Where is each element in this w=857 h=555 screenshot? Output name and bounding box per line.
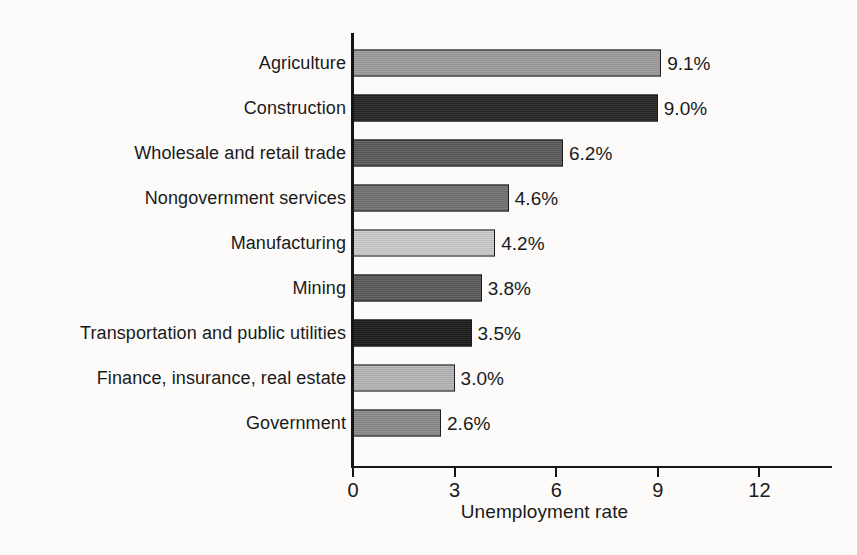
- category-label: Government: [246, 412, 346, 434]
- bar-row: Transportation and public utilities3.5%: [0, 310, 857, 355]
- x-axis-tick-label: 0: [347, 478, 358, 502]
- x-axis-tick-label: 3: [449, 478, 460, 502]
- bar-value-label: 3.8%: [488, 276, 531, 299]
- category-label: Transportation and public utilities: [80, 322, 346, 344]
- bar: [353, 274, 482, 301]
- x-axis-title-text: Unemployment rate: [461, 501, 629, 523]
- bar-value-label: 6.2%: [569, 141, 612, 164]
- bar-row: Finance, insurance, real estate3.0%: [0, 355, 857, 400]
- category-label: Mining: [292, 277, 346, 299]
- bar-chart: Agriculture9.1%Construction9.0%Wholesale…: [0, 0, 857, 555]
- category-label: Finance, insurance, real estate: [97, 367, 346, 389]
- x-axis-tick-label: 9: [652, 478, 663, 502]
- bar-value-label: 9.1%: [667, 51, 710, 74]
- bar-row: Wholesale and retail trade6.2%: [0, 130, 857, 175]
- category-label: Agriculture: [259, 52, 346, 74]
- bar: [353, 409, 441, 436]
- x-axis-tick: [758, 466, 760, 477]
- y-axis-line: [351, 33, 354, 468]
- bar-row: Agriculture9.1%: [0, 40, 857, 85]
- bar: [353, 94, 658, 121]
- bar: [353, 49, 661, 76]
- x-axis-tick: [352, 466, 354, 477]
- bar-value-label: 2.6%: [447, 411, 490, 434]
- x-axis-title: Unemployment rate: [0, 501, 857, 523]
- bar-row: Mining3.8%: [0, 265, 857, 310]
- bar-value-label: 3.5%: [478, 321, 521, 344]
- bar-value-label: 4.6%: [515, 186, 558, 209]
- bar-row: Nongovernment services4.6%: [0, 175, 857, 220]
- bar-value-label: 4.2%: [501, 231, 544, 254]
- x-axis-tick-label: 6: [551, 478, 562, 502]
- x-axis-tick: [454, 466, 456, 477]
- category-label: Nongovernment services: [145, 187, 346, 209]
- x-axis-tick-label: 12: [748, 478, 770, 502]
- x-axis-tick: [657, 466, 659, 477]
- bar-row: Construction9.0%: [0, 85, 857, 130]
- bar-value-label: 9.0%: [664, 96, 707, 119]
- bar-value-label: 3.0%: [461, 366, 504, 389]
- category-label: Construction: [244, 97, 346, 119]
- bar: [353, 184, 509, 211]
- category-label: Wholesale and retail trade: [134, 142, 346, 164]
- category-label: Manufacturing: [231, 232, 346, 254]
- bar: [353, 364, 455, 391]
- bar: [353, 319, 472, 346]
- bar-row: Government2.6%: [0, 400, 857, 445]
- bar-row: Manufacturing4.2%: [0, 220, 857, 265]
- bar: [353, 139, 563, 166]
- x-axis-tick: [555, 466, 557, 477]
- bar: [353, 229, 495, 256]
